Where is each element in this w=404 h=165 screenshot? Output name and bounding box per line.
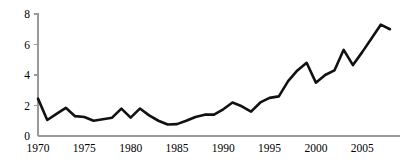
x-axis-tick-label: 1995 (258, 142, 281, 154)
chart-plot-area: 02468 19701975198019851990199520002005 (0, 0, 404, 165)
y-axis-tick-label: 8 (24, 8, 30, 20)
line-chart: 02468 19701975198019851990199520002005 (0, 0, 404, 165)
y-axis-tick-label: 0 (24, 130, 30, 142)
y-axis-labels: 02468 (24, 8, 30, 142)
data-series-line (38, 25, 390, 125)
x-axis-tick-label: 1990 (212, 142, 235, 154)
y-axis-tick-label: 6 (24, 39, 30, 51)
y-axis-tick-label: 4 (24, 69, 30, 81)
y-axis-tick-label: 2 (24, 100, 30, 112)
x-axis-labels: 19701975198019851990199520002005 (27, 142, 374, 154)
x-axis-tick-label: 1970 (27, 142, 50, 154)
x-axis-tick-label: 1985 (165, 142, 188, 154)
x-axis-tick-label: 1980 (119, 142, 142, 154)
x-axis-tick-label: 2005 (351, 142, 374, 154)
x-axis-tick-label: 1975 (73, 142, 96, 154)
x-axis-tick-label: 2000 (304, 142, 327, 154)
